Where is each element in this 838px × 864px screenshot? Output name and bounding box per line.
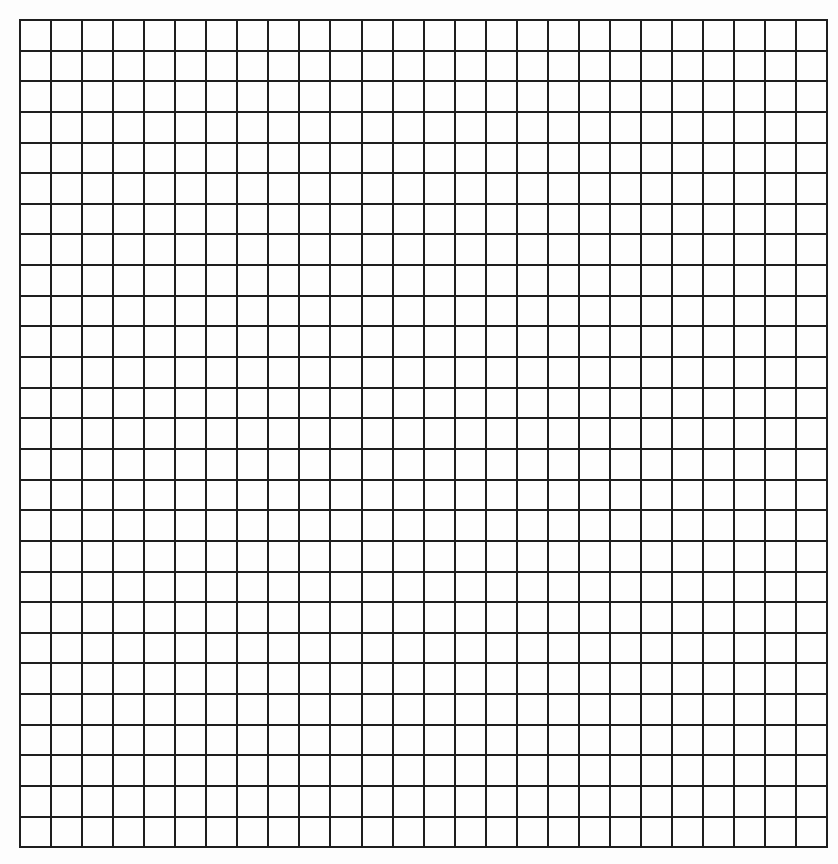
grid-cell [238, 144, 269, 175]
grid-cell [456, 113, 487, 144]
grid-cell [238, 297, 269, 328]
grid-cell [238, 52, 269, 83]
grid-cell [518, 787, 549, 818]
grid-cell [363, 818, 394, 849]
grid-cell [83, 297, 114, 328]
grid-cell [797, 787, 828, 818]
grid-cell [456, 450, 487, 481]
grid-cell [611, 52, 642, 83]
grid-cell [21, 787, 52, 818]
grid-cell [735, 542, 766, 573]
grid-cell [269, 695, 300, 726]
grid-cell [766, 266, 797, 297]
grid-cell [797, 205, 828, 236]
grid-cell [673, 603, 704, 634]
grid-cell [21, 573, 52, 604]
grid-cell [300, 174, 331, 205]
grid-cell [21, 358, 52, 389]
grid-cell [735, 419, 766, 450]
grid-cell [611, 634, 642, 665]
grid-cell [766, 726, 797, 757]
grid-cell [766, 481, 797, 512]
grid-cell [673, 113, 704, 144]
grid-cell [518, 481, 549, 512]
grid-cell [114, 695, 145, 726]
grid-cell [238, 818, 269, 849]
grid-cell [611, 756, 642, 787]
grid-cell [611, 511, 642, 542]
grid-cell [580, 603, 611, 634]
grid-cell [735, 205, 766, 236]
grid-cell [797, 481, 828, 512]
grid-cell [331, 174, 362, 205]
grid-cell [207, 756, 238, 787]
grid-cell [300, 235, 331, 266]
grid-cell [394, 174, 425, 205]
grid-cell [300, 542, 331, 573]
grid-cell [300, 787, 331, 818]
grid-cell [425, 634, 456, 665]
grid-cell [394, 787, 425, 818]
grid-cell [425, 726, 456, 757]
grid-cell [331, 450, 362, 481]
grid-cell [269, 358, 300, 389]
grid-cell [21, 664, 52, 695]
grid-cell [83, 419, 114, 450]
grid-cell [331, 818, 362, 849]
grid-cell [673, 634, 704, 665]
grid-cell [269, 511, 300, 542]
grid-cell [642, 481, 673, 512]
grid-cell [487, 82, 518, 113]
grid-cell [363, 389, 394, 420]
grid-cell [735, 481, 766, 512]
grid-cell [331, 21, 362, 52]
grid-cell [797, 603, 828, 634]
grid-cell [518, 327, 549, 358]
grid-cell [456, 634, 487, 665]
grid-cell [363, 511, 394, 542]
grid-cell [549, 297, 580, 328]
grid-cell [642, 634, 673, 665]
grid-cell [735, 389, 766, 420]
grid-cell [487, 419, 518, 450]
grid-cell [580, 664, 611, 695]
grid-cell [300, 389, 331, 420]
grid-cell [642, 450, 673, 481]
grid-cell [704, 174, 735, 205]
grid-cell [611, 174, 642, 205]
grid-cell [673, 726, 704, 757]
grid-cell [487, 266, 518, 297]
grid-cell [766, 205, 797, 236]
grid-cell [331, 266, 362, 297]
grid-cell [176, 205, 207, 236]
grid-cell [363, 52, 394, 83]
grid-cell [176, 174, 207, 205]
grid-cell [394, 450, 425, 481]
grid-cell [611, 113, 642, 144]
grid-cell [580, 511, 611, 542]
grid-cell [83, 358, 114, 389]
grid-cell [704, 113, 735, 144]
grid-cell [797, 634, 828, 665]
grid-cell [735, 21, 766, 52]
grid-cell [518, 174, 549, 205]
grid-cell [176, 726, 207, 757]
grid-cell [269, 634, 300, 665]
grid-cell [673, 235, 704, 266]
grid-cell [642, 174, 673, 205]
grid-cell [549, 235, 580, 266]
grid-cell [611, 695, 642, 726]
grid-cell [83, 389, 114, 420]
grid-cell [735, 573, 766, 604]
grid-cell [766, 235, 797, 266]
grid-cell [207, 450, 238, 481]
grid-cell [456, 389, 487, 420]
grid-cell [766, 664, 797, 695]
grid-cell [394, 573, 425, 604]
grid-cell [238, 235, 269, 266]
grid-cell [21, 266, 52, 297]
grid-cell [518, 82, 549, 113]
grid-cell [518, 235, 549, 266]
grid-cell [642, 756, 673, 787]
grid-cell [207, 634, 238, 665]
